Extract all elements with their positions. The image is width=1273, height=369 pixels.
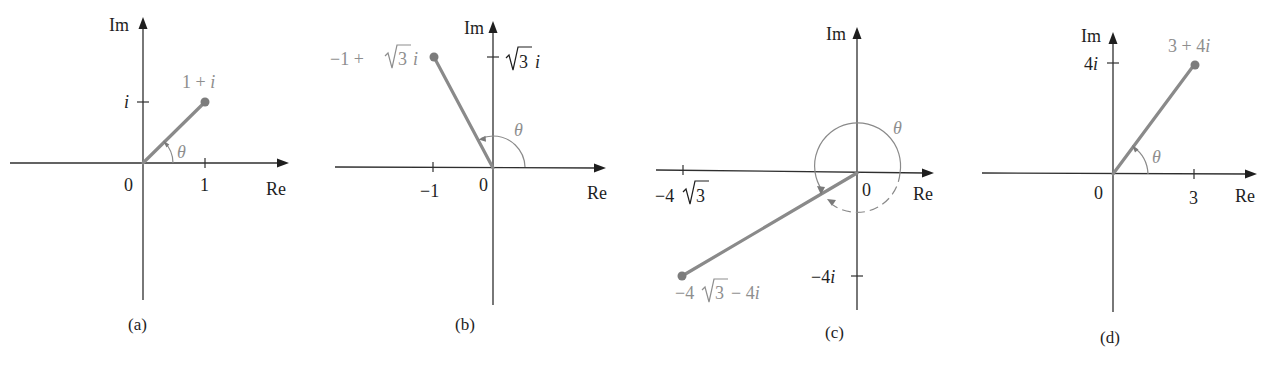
panel-caption: (b) [455,315,475,334]
svg-text:3: 3 [519,52,528,72]
svg-text:3: 3 [715,283,724,303]
svg-text:−4: −4 [655,186,674,206]
point-label: −4 3 − 4i [675,279,760,303]
complex-point [1191,61,1200,70]
point-label: 1 + i [182,72,215,92]
im-tick-label: i [124,92,129,112]
complex-vector [143,102,205,163]
complex-point [201,98,210,107]
argand-diagrams-figure: Im Re 0 1 i 1 + i θ (a) Im Re 0 −1 3 i −… [0,0,1273,369]
real-axis [656,170,925,173]
re-axis-label: Re [266,179,286,199]
panel-d: Im Re 0 3 4i 3 + 4i θ (d) [982,26,1257,347]
complex-point [430,53,439,62]
origin-label: 0 [479,175,488,195]
panel-c: Im Re 0 −4 3 −4i −4 3 − 4i θ (c) [655,24,934,342]
re-axis-label: Re [587,183,607,203]
im-axis-label: Im [109,15,129,35]
re-tick-label: −1 [420,181,439,201]
point-label: −1 + 3 i [330,45,418,69]
svg-text:3: 3 [398,49,407,69]
complex-vector [682,173,857,276]
im-axis-label: Im [464,18,484,38]
origin-label: 0 [1094,183,1103,203]
im-tick-label: 4i [1084,54,1098,74]
panel-caption: (a) [128,315,147,334]
imaginary-axis-arrow-icon [853,27,862,39]
panel-caption: (d) [1100,328,1120,347]
re-axis-label: Re [1235,186,1255,206]
svg-text:− 4i: − 4i [731,283,760,303]
im-axis-label: Im [1081,26,1101,46]
clockwise-angle-arrow-icon [827,199,836,206]
im-axis-label: Im [826,24,846,44]
real-axis-arrow-icon [1245,170,1257,179]
point-label: 3 + 4i [1168,36,1210,56]
origin-label: 0 [124,175,133,195]
real-axis-arrow-icon [277,159,289,168]
imaginary-axis-arrow-icon [139,17,148,29]
angle-arc [481,136,525,167]
origin-label: 0 [862,180,871,200]
imaginary-axis-arrow-icon [1109,32,1118,44]
real-axis [335,167,597,168]
panel-b: Im Re 0 −1 3 i −1 + 3 i θ (b) [330,18,607,334]
theta-label: θ [893,118,902,138]
panel-a: Im Re 0 1 i 1 + i θ (a) [10,15,289,334]
re-tick-label: −4 3 [655,181,709,206]
theta-label: θ [1152,147,1161,167]
complex-point [678,272,687,281]
theta-label: θ [514,120,523,140]
re-axis-label: Re [913,184,933,204]
panel-caption: (c) [825,323,844,342]
re-tick-label: 3 [1189,188,1198,208]
real-axis-arrow-icon [922,169,934,178]
im-tick-label: −4i [811,267,835,287]
svg-text:3: 3 [696,186,705,206]
re-tick-label: 1 [200,175,209,195]
im-tick-label: 3 i [506,47,540,72]
svg-text:i: i [535,52,540,72]
svg-text:i: i [413,49,418,69]
theta-label: θ [177,142,186,162]
real-axis-arrow-icon [594,164,606,173]
svg-text:−4: −4 [675,283,694,303]
complex-vector [434,57,493,168]
imaginary-axis-arrow-icon [489,21,498,33]
svg-text:−1 +: −1 + [330,49,364,69]
